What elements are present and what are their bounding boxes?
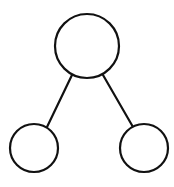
edge-root-left <box>47 75 72 127</box>
root-node <box>55 14 119 78</box>
right-child-node <box>120 124 168 172</box>
edges-group <box>47 75 133 127</box>
edge-root-right <box>103 75 133 127</box>
left-child-node <box>10 124 58 172</box>
tree-diagram <box>0 0 174 187</box>
nodes-group <box>10 14 168 172</box>
tree-diagram-svg <box>0 0 174 187</box>
